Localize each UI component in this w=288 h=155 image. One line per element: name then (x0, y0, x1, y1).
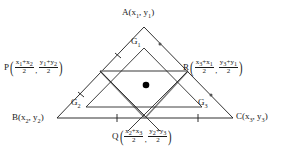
q-y-term2-sub: 3 (163, 130, 166, 137)
cevian-right (128, 71, 188, 131)
p-x-term2-sub: 2 (30, 61, 33, 68)
vertex-label-c: C(x3, y3) (236, 112, 268, 121)
q-x-term2-sub: 3 (139, 130, 142, 137)
midpoint-label-p: P ( x1+x2 2 , y1+y2 2 ) (4, 59, 64, 76)
centroid-label-g2: G2 (71, 98, 81, 107)
midpoint-q-comma: , (143, 136, 148, 144)
r-x-denominator: 2 (195, 68, 214, 76)
paren-close-p: ) (59, 59, 63, 76)
paren-close-b: ) (41, 112, 44, 122)
tick-ca-lower (210, 94, 213, 97)
r-y-denominator: 2 (219, 68, 238, 76)
centroid-dot (143, 82, 150, 89)
midpoint-r-name: R (183, 63, 189, 72)
centroid-label-g1: G1 (131, 37, 141, 46)
paren-open-q: ( (120, 128, 124, 145)
r-y-term2-sub: 1 (234, 61, 237, 68)
midpoint-q-y-fraction: y2+y3 2 (148, 128, 167, 145)
paren-close-r: ) (239, 59, 243, 76)
r-x-term2-sub: 1 (210, 61, 213, 68)
tick-ca-upper (159, 43, 162, 46)
comma-b: , (29, 112, 31, 122)
paren-close-c: ) (265, 111, 268, 121)
vertex-label-b: B(x2, y2) (12, 113, 44, 122)
comma-c: , (253, 111, 255, 121)
paren-open-r: ( (190, 59, 194, 76)
vertex-label-a: A(x1, y1) (122, 8, 154, 17)
cevian-left (100, 71, 160, 131)
g1-sub: 1 (138, 41, 141, 48)
q-y-denominator: 2 (148, 137, 167, 145)
g3-sub: 3 (205, 102, 208, 109)
midpoint-p-comma: , (34, 67, 39, 75)
medial-triangle-pqr (100, 71, 188, 118)
midpoint-p-x-fraction: x1+x2 2 (15, 59, 34, 76)
centroid-cevians (100, 71, 188, 131)
paren-close-q: ) (169, 128, 173, 145)
g2-sub: 2 (78, 102, 81, 109)
paren-open-p: ( (10, 59, 14, 76)
comma-a: , (139, 7, 141, 17)
midpoint-q-x-fraction: x2+x3 2 (124, 128, 143, 145)
centroid-label-g3: G3 (198, 98, 208, 107)
midpoint-p-name: P (4, 63, 9, 72)
p-y-term2-sub: 2 (54, 61, 57, 68)
midpoint-r-comma: , (214, 67, 219, 75)
midpoint-r-y-fraction: y3+y1 2 (219, 59, 238, 76)
centroid-triangle (86, 48, 202, 107)
midpoint-q-name: Q (112, 132, 119, 141)
midpoint-r-x-fraction: x3+x1 2 (195, 59, 214, 76)
q-x-denominator: 2 (124, 137, 143, 145)
paren-close-a: ) (151, 7, 154, 17)
p-x-denominator: 2 (15, 68, 34, 76)
midpoint-p-y-fraction: y1+y2 2 (39, 59, 58, 76)
midpoint-label-q: Q ( x2+x3 2 , y2+y3 2 ) (112, 128, 173, 145)
p-y-denominator: 2 (39, 68, 58, 76)
midpoint-label-r: R ( x3+x1 2 , y3+y1 2 ) (183, 59, 244, 76)
diagram-canvas: A(x1, y1) B(x2, y2) C(x3, y3) P ( x1+x2 … (0, 0, 288, 155)
